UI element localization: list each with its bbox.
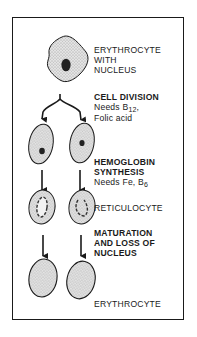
heading: CELL DIVISION <box>94 92 159 102</box>
heading: SYNTHESIS <box>94 167 155 177</box>
erythrocyte-left <box>26 257 59 299</box>
label-hemoglobin-synthesis: HEMOGLOBIN SYNTHESIS Needs Fe, B6 <box>94 157 155 189</box>
label-line: ERYTHROCYTE <box>94 45 161 55</box>
label-line: NUCLEUS <box>94 65 161 75</box>
reticulocyte-left <box>27 188 57 225</box>
daughter-cell-right <box>67 121 98 165</box>
label-reticulocyte: RETICULOCYTE <box>94 203 163 213</box>
heading: MATURATION <box>94 228 155 238</box>
heading: HEMOGLOBIN <box>94 157 155 167</box>
maturation-arrows <box>43 235 81 256</box>
needs-line: Needs Fe, B6 <box>94 177 155 188</box>
hemoglobin-arrows <box>42 170 80 190</box>
erythrocyte-right <box>63 259 98 302</box>
heading: NUCLEUS <box>94 248 155 258</box>
label-maturation: MATURATION AND LOSS OF NUCLEUS <box>94 228 155 259</box>
nucleus-icon <box>61 59 70 72</box>
label-erythrocyte: ERYTHROCYTE <box>94 299 161 309</box>
daughter-cell-left <box>26 122 57 166</box>
label-line: WITH <box>94 55 161 65</box>
cell-division-arrows <box>42 94 81 120</box>
label-erythrocyte-with-nucleus: ERYTHROCYTE WITH NUCLEUS <box>94 45 161 76</box>
label-cell-division: CELL DIVISION Needs B12, Folic acid <box>94 92 159 124</box>
nucleated-erythrocyte-cell <box>47 36 88 82</box>
needs-line-2: Folic acid <box>94 113 159 123</box>
needs-line: Needs B12, <box>94 102 159 113</box>
heading: AND LOSS OF <box>94 238 155 248</box>
reticulocyte-right <box>67 188 97 225</box>
